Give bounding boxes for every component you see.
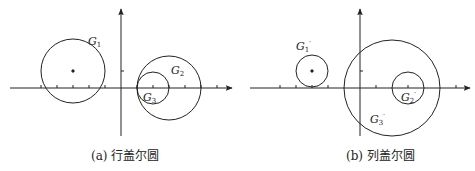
center-dot-g1	[72, 70, 74, 72]
label-g1-prime: G1′	[296, 40, 311, 54]
label-g3: G3	[143, 91, 156, 105]
caption-a: (a) 行盖尔圆	[91, 146, 159, 163]
panel-a-plot	[10, 9, 232, 136]
label-g1: G1	[88, 35, 101, 49]
panel-b-plot	[250, 9, 470, 136]
label-g2: G2	[171, 64, 184, 78]
caption-b: (b) 列盖尔圆	[346, 146, 415, 163]
center-dot-g1-prime	[311, 70, 313, 72]
label-g3-prime: G3′	[370, 113, 385, 127]
label-g2-prime: G2′	[401, 91, 416, 105]
